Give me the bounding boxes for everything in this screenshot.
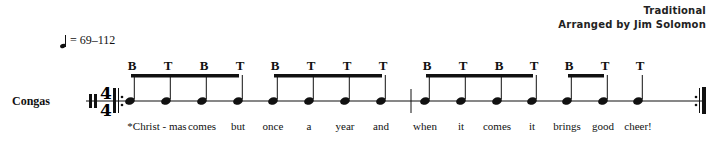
sticking-label: T bbox=[601, 58, 610, 74]
lyric-word: but bbox=[231, 120, 245, 132]
beam bbox=[274, 74, 382, 78]
sticking-label: T bbox=[236, 58, 245, 74]
sticking-label: B bbox=[495, 58, 504, 74]
sticking-label: T bbox=[379, 58, 388, 74]
sticking-label: T bbox=[164, 58, 173, 74]
percussion-clef-icon bbox=[89, 94, 92, 108]
time-signature-bottom: 4 bbox=[100, 100, 112, 120]
sticking-label: T bbox=[459, 58, 468, 74]
lyric-word: good bbox=[592, 120, 614, 132]
beam bbox=[426, 74, 533, 78]
sticking-label: T bbox=[307, 58, 316, 74]
sticking-label: T bbox=[530, 58, 539, 74]
sticking-label: B bbox=[565, 58, 574, 74]
beam bbox=[131, 74, 239, 78]
end-repeat-icon bbox=[695, 96, 698, 99]
sticking-label: T bbox=[636, 58, 645, 74]
beam bbox=[568, 74, 604, 78]
lyric-word: cheer! bbox=[624, 120, 651, 132]
sticking-label: B bbox=[200, 58, 209, 74]
lyric-word: year bbox=[336, 120, 355, 132]
sticking-label: T bbox=[343, 58, 352, 74]
sticking-label: B bbox=[271, 58, 280, 74]
lyric-word: and bbox=[373, 120, 389, 132]
lyric-word: it bbox=[458, 120, 464, 132]
sticking-label: B bbox=[423, 58, 432, 74]
lyric-word: a bbox=[307, 120, 312, 132]
lyric-word: comes bbox=[188, 120, 216, 132]
lyric-word: it bbox=[529, 120, 535, 132]
lyric-word: brings bbox=[553, 120, 581, 132]
lyric-word: when bbox=[413, 120, 437, 132]
sticking-label: B bbox=[128, 58, 137, 74]
lyric-word: once bbox=[263, 120, 284, 132]
lyric-word: comes bbox=[483, 120, 511, 132]
start-repeat-icon bbox=[113, 88, 116, 113]
lyric-word: *Christ - mas bbox=[127, 120, 186, 132]
